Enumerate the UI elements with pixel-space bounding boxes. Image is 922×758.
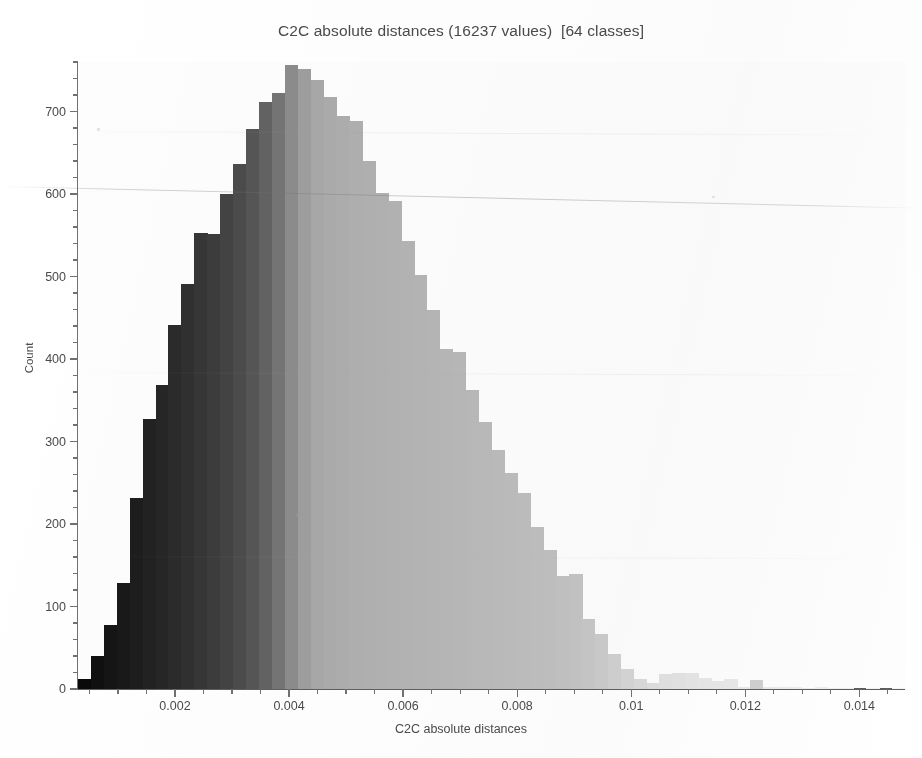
histogram-bar xyxy=(194,233,208,689)
y-axis-minor-tick xyxy=(73,622,78,623)
y-axis-major-tick xyxy=(70,276,78,277)
histogram-bar xyxy=(117,583,131,689)
x-axis-minor-tick xyxy=(374,689,375,694)
histogram-bar xyxy=(388,201,402,689)
x-axis-minor-tick xyxy=(89,689,90,694)
y-axis-tick-label: 500 xyxy=(26,271,66,284)
histogram-bars xyxy=(78,62,905,689)
histogram-bar xyxy=(414,275,428,689)
histogram-bar xyxy=(517,493,531,689)
histogram-bar xyxy=(130,498,144,689)
histogram-bar xyxy=(659,674,673,689)
y-axis-minor-tick xyxy=(73,144,78,145)
x-axis-minor-tick xyxy=(488,689,489,694)
y-axis-tick-label: 100 xyxy=(26,601,66,614)
histogram-bar xyxy=(272,93,286,689)
y-axis-major-tick xyxy=(70,193,78,194)
y-axis-minor-tick xyxy=(73,127,78,128)
x-axis-minor-tick xyxy=(773,689,774,694)
x-axis-minor-tick xyxy=(317,689,318,694)
y-axis-major-tick xyxy=(70,606,78,607)
histogram-bar xyxy=(711,681,725,689)
histogram-bar xyxy=(298,69,312,689)
x-axis-major-tick xyxy=(402,689,403,697)
y-axis-major-tick xyxy=(70,688,78,689)
y-axis-minor-tick xyxy=(73,342,78,343)
x-axis-minor-tick xyxy=(203,689,204,694)
y-axis-major-tick xyxy=(70,111,78,112)
histogram-bar xyxy=(466,390,480,689)
histogram-bar xyxy=(401,241,415,689)
chart-title: C2C absolute distances (16237 values) [6… xyxy=(0,22,922,40)
y-axis-minor-tick xyxy=(73,160,78,161)
x-axis-major-tick xyxy=(745,689,746,697)
histogram-bar xyxy=(492,450,506,689)
histogram-bar xyxy=(349,121,363,689)
y-axis-minor-tick xyxy=(73,474,78,475)
y-axis-minor-tick xyxy=(73,309,78,310)
y-axis-minor-tick xyxy=(73,573,78,574)
histogram-bar xyxy=(685,673,699,690)
histogram-bar xyxy=(259,102,273,689)
x-axis-minor-tick xyxy=(887,689,888,694)
histogram-bar xyxy=(440,349,454,689)
y-axis-tick-label: 300 xyxy=(26,436,66,449)
y-axis-minor-tick xyxy=(73,210,78,211)
y-axis-tick-labels: 0100200300400500600700 xyxy=(18,0,66,758)
histogram-bar xyxy=(750,680,764,689)
x-axis-tick-label: 0.01 xyxy=(619,699,643,713)
x-axis-minor-tick xyxy=(117,689,118,694)
histogram-bar xyxy=(840,688,854,689)
histogram-bar xyxy=(647,683,661,689)
x-axis-tick-label: 0.008 xyxy=(502,699,533,713)
x-axis-tick-label: 0.004 xyxy=(273,699,304,713)
x-axis-minor-tick xyxy=(231,689,232,694)
x-axis-minor-tick xyxy=(431,689,432,694)
histogram-bar xyxy=(246,129,260,689)
histogram-bar xyxy=(375,193,389,689)
x-axis-minor-tick xyxy=(545,689,546,694)
histogram-bar xyxy=(504,473,518,689)
histogram-bar xyxy=(892,688,906,689)
histogram-bar xyxy=(78,679,92,689)
x-axis-major-tick xyxy=(288,689,289,697)
y-axis-major-tick xyxy=(70,441,78,442)
y-axis-minor-tick xyxy=(73,78,78,79)
histogram-bar xyxy=(866,688,880,689)
histogram-bar xyxy=(543,550,557,689)
x-axis-tick-label: 0.002 xyxy=(159,699,190,713)
y-axis-minor-tick xyxy=(73,457,78,458)
y-axis-minor-tick xyxy=(73,424,78,425)
x-axis-tick-label: 0.012 xyxy=(730,699,761,713)
x-axis-minor-tick xyxy=(602,689,603,694)
histogram-bar xyxy=(724,679,738,689)
y-axis-minor-tick xyxy=(73,177,78,178)
y-axis-minor-tick xyxy=(73,259,78,260)
histogram-bar xyxy=(207,234,221,689)
histogram-bar xyxy=(634,679,648,689)
histogram-bar xyxy=(362,161,376,689)
histogram-bar xyxy=(776,687,790,689)
y-axis-tick-label: 600 xyxy=(26,188,66,201)
histogram-bar xyxy=(336,116,350,689)
y-axis-minor-tick xyxy=(73,226,78,227)
histogram-bar xyxy=(168,325,182,689)
histogram-bar xyxy=(556,576,570,689)
y-axis-minor-tick xyxy=(73,292,78,293)
y-axis-minor-tick xyxy=(73,408,78,409)
histogram-bar xyxy=(569,574,583,689)
x-axis-minor-tick xyxy=(460,689,461,694)
histogram-bar xyxy=(621,669,635,689)
y-axis-minor-tick xyxy=(73,639,78,640)
histogram-bar xyxy=(479,422,493,689)
y-axis-minor-tick xyxy=(73,556,78,557)
y-axis-tick-label: 700 xyxy=(26,106,66,119)
x-axis-major-tick xyxy=(174,689,175,697)
histogram-bar xyxy=(91,656,105,689)
histogram-bar xyxy=(672,673,686,689)
histogram-bar xyxy=(104,625,118,689)
x-axis-minor-tick xyxy=(830,689,831,694)
x-axis-major-tick xyxy=(517,689,518,697)
x-axis-minor-tick xyxy=(146,689,147,694)
histogram-bar xyxy=(143,419,157,689)
